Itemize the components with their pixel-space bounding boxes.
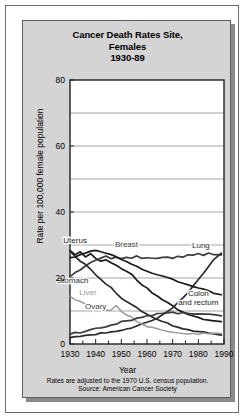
y-axis-label: Rate per 100,000 female population: [35, 96, 45, 256]
series-label-lung: Lung: [192, 241, 210, 250]
series-label-ovary: Ovary: [85, 302, 106, 311]
x-tick-label: 1990: [207, 350, 241, 359]
chart-card: Cancer Death Rates Site, Females 1930-89…: [22, 20, 231, 398]
plot-area: UterusUterusBreastBreastLungLungStomachS…: [23, 21, 232, 399]
y-tick-label: 80: [39, 76, 65, 85]
series-label-colon-and-rectum: and rectum: [178, 298, 218, 307]
y-tick-label: 40: [39, 208, 65, 217]
footnote-line-1: Rates are adjusted to the 1970 U.S. cens…: [31, 377, 224, 385]
chart-footnote: Rates are adjusted to the 1970 U.S. cens…: [31, 377, 224, 393]
outer-frame: Cancer Death Rates Site, Females 1930-89…: [5, 5, 239, 413]
y-tick-label: 20: [39, 274, 65, 283]
series-label-uterus: Uterus: [63, 236, 87, 245]
series-label-breast: Breast: [115, 240, 139, 249]
y-tick-label: 0: [39, 340, 65, 349]
series-label-liver: Liver: [79, 288, 97, 297]
footnote-line-2: Source: American Cancer Society: [31, 385, 224, 393]
x-axis-label: Year: [23, 365, 232, 375]
y-tick-label: 60: [39, 142, 65, 151]
